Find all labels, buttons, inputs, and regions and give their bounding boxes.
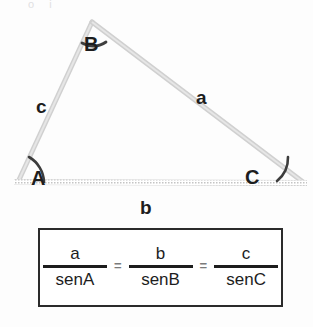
vertex-label-A: A bbox=[31, 168, 45, 188]
numerator-b: b bbox=[156, 245, 165, 265]
denominator-senB: senB bbox=[141, 268, 180, 289]
fraction-c-senC: c senC bbox=[214, 245, 278, 289]
side-label-b: b bbox=[140, 198, 152, 217]
side-label-c: c bbox=[36, 97, 47, 116]
equals-sign-1: = bbox=[114, 259, 122, 272]
numerator-c: c bbox=[242, 245, 251, 265]
law-of-sines-box: a senA = b senB = c senC bbox=[38, 228, 283, 307]
side-label-a: a bbox=[196, 88, 207, 107]
triangle-figure: B A C a c b bbox=[0, 8, 313, 213]
denominator-senC: senC bbox=[226, 268, 266, 289]
fraction-a-senA: a senA bbox=[43, 245, 107, 289]
fraction-b-senB: b senB bbox=[129, 245, 193, 289]
diagram-page: o i B bbox=[0, 0, 313, 327]
denominator-senA: senA bbox=[56, 268, 95, 289]
formula-row: a senA = b senB = c senC bbox=[43, 245, 278, 289]
numerator-a: a bbox=[70, 245, 79, 265]
vertex-label-C: C bbox=[245, 167, 259, 187]
scan-artifact-text: o i bbox=[0, 0, 313, 8]
equals-sign-2: = bbox=[200, 259, 208, 272]
vertex-label-B: B bbox=[84, 34, 98, 54]
triangle-side-b-texture bbox=[14, 182, 307, 183]
